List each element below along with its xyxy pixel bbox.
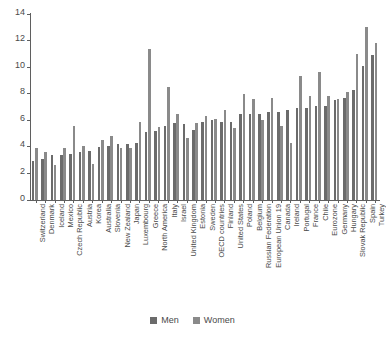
bar-group bbox=[201, 14, 210, 200]
x-tick-mark bbox=[111, 200, 112, 203]
x-axis-label: Ireland bbox=[293, 204, 300, 227]
x-axis-label: Korea bbox=[95, 204, 102, 224]
bar-group bbox=[144, 14, 153, 200]
bar-group bbox=[305, 14, 314, 200]
x-tick-mark bbox=[253, 200, 254, 203]
x-tick-mark bbox=[366, 200, 367, 203]
bar-men bbox=[173, 123, 176, 200]
x-axis-label: New Zealand bbox=[124, 204, 131, 248]
y-tick-label: 2 bbox=[20, 167, 25, 176]
x-tick-mark bbox=[328, 200, 329, 203]
bar-men bbox=[154, 131, 157, 200]
bar-men bbox=[324, 106, 327, 200]
x-axis-label: Denmark bbox=[48, 204, 55, 234]
x-tick-mark bbox=[102, 200, 103, 203]
x-tick-mark bbox=[121, 200, 122, 203]
bar-men bbox=[305, 108, 308, 200]
bar-group bbox=[342, 14, 351, 200]
bar-women bbox=[176, 114, 179, 200]
x-axis-label: OECD countries bbox=[218, 204, 225, 257]
x-tick-mark bbox=[158, 200, 159, 203]
bar-women bbox=[63, 148, 66, 200]
legend-item-women[interactable]: Women bbox=[193, 316, 235, 325]
chart-legend: MenWomen bbox=[0, 316, 385, 325]
bar-group bbox=[40, 14, 49, 200]
x-tick-mark bbox=[272, 200, 273, 203]
bar-group bbox=[69, 14, 78, 200]
x-axis-label: Hungary bbox=[350, 204, 357, 232]
bar-men bbox=[277, 112, 280, 200]
bar-group bbox=[31, 14, 40, 200]
bar-group bbox=[361, 14, 370, 200]
bar-group bbox=[210, 14, 219, 200]
bar-group bbox=[314, 14, 323, 200]
bar-men bbox=[107, 146, 110, 200]
x-tick-mark bbox=[319, 200, 320, 203]
bar-group bbox=[59, 14, 68, 200]
x-axis-label: Canada bbox=[284, 204, 291, 230]
x-tick-mark bbox=[83, 200, 84, 203]
x-axis-label: Poland bbox=[246, 204, 253, 227]
x-tick-mark bbox=[224, 200, 225, 203]
x-tick-mark bbox=[375, 200, 376, 203]
x-tick-mark bbox=[300, 200, 301, 203]
x-axis-label: Slovenia bbox=[114, 204, 121, 232]
x-axis-label: Belgium bbox=[256, 204, 263, 231]
bar-group bbox=[191, 14, 200, 200]
bar-women bbox=[82, 146, 85, 200]
bar-men bbox=[126, 144, 129, 200]
bar-men bbox=[164, 126, 167, 200]
x-axis-label: United Kingdom bbox=[190, 204, 197, 257]
x-tick-mark bbox=[187, 200, 188, 203]
bar-women bbox=[186, 138, 189, 200]
x-tick-mark bbox=[196, 200, 197, 203]
legend-item-men[interactable]: Men bbox=[150, 316, 179, 325]
bar-women bbox=[224, 110, 227, 200]
bar-group bbox=[371, 14, 380, 200]
bar-group bbox=[286, 14, 295, 200]
bar-women bbox=[205, 116, 208, 200]
bar-women bbox=[290, 143, 293, 200]
x-axis-label: Mexico bbox=[67, 204, 74, 227]
bar-men bbox=[315, 106, 318, 200]
bar-men bbox=[98, 147, 101, 200]
bar-women bbox=[158, 127, 161, 200]
x-tick-mark bbox=[290, 200, 291, 203]
bar-men bbox=[135, 143, 138, 200]
bar-women bbox=[92, 164, 95, 200]
bar-women bbox=[318, 72, 321, 200]
x-axis-label: Finland bbox=[227, 204, 234, 228]
bar-group bbox=[78, 14, 87, 200]
x-axis-label: Spain bbox=[369, 204, 376, 223]
x-tick-mark bbox=[36, 200, 37, 203]
bar-women bbox=[375, 43, 378, 200]
bar-men bbox=[352, 90, 355, 200]
bar-women bbox=[148, 49, 151, 200]
bar-women bbox=[346, 92, 349, 200]
x-tick-mark bbox=[177, 200, 178, 203]
x-axis-label: Switzerland bbox=[39, 204, 46, 242]
bar-women bbox=[365, 27, 368, 200]
bar-group bbox=[267, 14, 276, 200]
y-axis-ticks: 02468101214 bbox=[0, 0, 31, 214]
bar-women bbox=[139, 122, 142, 200]
bar-women bbox=[327, 96, 330, 200]
bar-group bbox=[323, 14, 332, 200]
bar-group bbox=[248, 14, 257, 200]
bar-group bbox=[220, 14, 229, 200]
x-tick-mark bbox=[168, 200, 169, 203]
bar-group bbox=[229, 14, 238, 200]
bar-men bbox=[192, 130, 195, 200]
x-axis-label: United States bbox=[237, 204, 244, 248]
bar-men bbox=[201, 122, 204, 200]
x-axis-label: Luxembourg bbox=[142, 204, 149, 245]
bar-women bbox=[261, 120, 264, 200]
bar-men bbox=[286, 110, 289, 200]
bar-group bbox=[333, 14, 342, 200]
bar-group bbox=[106, 14, 115, 200]
bar-women bbox=[73, 126, 76, 200]
x-axis-label: Portugal bbox=[303, 204, 310, 232]
bar-women bbox=[309, 96, 312, 200]
bar-men bbox=[239, 114, 242, 200]
